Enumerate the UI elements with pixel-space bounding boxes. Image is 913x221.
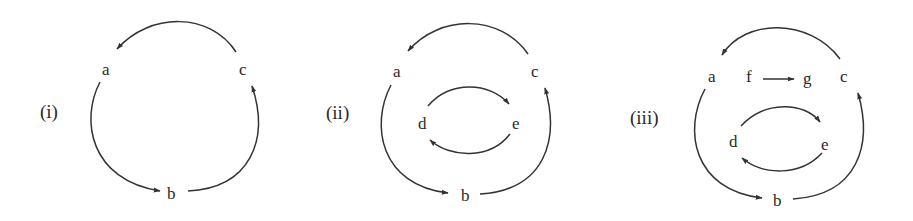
node-c: c [239, 60, 247, 79]
diagram-ii: (ii) a c b d e [326, 24, 550, 205]
edge-a-to-b [91, 82, 160, 191]
diagram-label: (i) [40, 101, 58, 123]
edge-e-to-d [430, 134, 510, 154]
node-d: d [729, 132, 738, 151]
graph-figure: (i) a c b (ii) a c b d e (iii) a f g c d… [0, 0, 913, 221]
node-c: c [840, 67, 848, 86]
diagram-label: (iii) [630, 107, 659, 129]
edge-e-to-d [742, 153, 822, 171]
node-b: b [461, 186, 470, 205]
edge-d-to-e [428, 87, 509, 106]
diagram-label: (ii) [326, 102, 349, 124]
edge-b-to-c [480, 88, 550, 194]
diagram-i: (i) a c b [40, 22, 258, 203]
edge-c-to-a [408, 24, 528, 54]
edge-b-to-c [188, 86, 258, 191]
node-e: e [512, 114, 520, 133]
edge-c-to-a [722, 28, 840, 59]
node-a: a [393, 62, 401, 81]
edge-d-to-e [741, 107, 820, 126]
edge-c-to-a [117, 22, 236, 52]
node-d: d [418, 114, 427, 133]
node-a: a [708, 67, 716, 86]
node-g: g [803, 69, 812, 88]
diagram-iii: (iii) a f g c d e b [630, 28, 863, 210]
node-b: b [167, 184, 176, 203]
node-c: c [531, 62, 539, 81]
node-b: b [773, 191, 782, 210]
node-e: e [821, 135, 829, 154]
node-f: f [746, 67, 752, 86]
edge-a-to-b [381, 85, 448, 193]
node-a: a [102, 60, 110, 79]
